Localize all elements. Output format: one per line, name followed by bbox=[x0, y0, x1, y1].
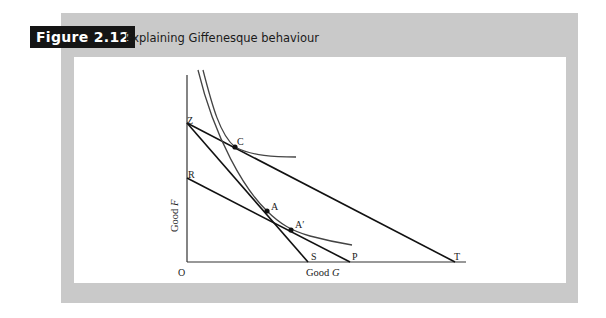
x-axis-label-var: G bbox=[332, 267, 340, 278]
budget-line-ZS bbox=[187, 123, 308, 262]
label-origin: O bbox=[178, 267, 185, 278]
label-A: A bbox=[271, 201, 279, 212]
x-axis-label: Good G bbox=[306, 267, 340, 278]
label-Z: Z bbox=[187, 115, 193, 126]
label-S: S bbox=[311, 251, 317, 262]
label-C: C bbox=[237, 136, 244, 147]
label-A-prime: A′ bbox=[295, 219, 304, 230]
y-axis-label-prefix: Good bbox=[169, 206, 180, 232]
label-T: T bbox=[454, 251, 460, 262]
x-axis-label-prefix: Good bbox=[306, 267, 332, 278]
y-axis-label-var: F bbox=[169, 199, 180, 207]
label-P: P bbox=[352, 251, 358, 262]
budget-line-RP bbox=[187, 178, 350, 262]
diagram-canvas: Z R C A A′ S P T O Good G Good F bbox=[0, 0, 606, 318]
budget-line-ZT bbox=[187, 123, 455, 262]
indifference-curve-upper bbox=[203, 70, 296, 157]
point-A-marker bbox=[264, 208, 269, 213]
indifference-curve-lower bbox=[198, 70, 352, 245]
y-axis-label: Good F bbox=[169, 199, 180, 232]
label-R: R bbox=[188, 169, 195, 180]
point-A-prime-marker bbox=[288, 227, 293, 232]
